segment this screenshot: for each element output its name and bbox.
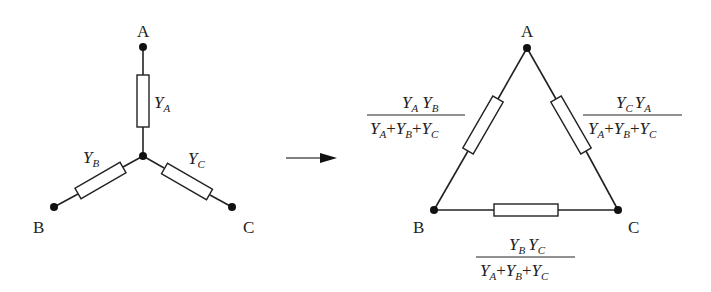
fraction-bc: YBYC YA+YB+YC bbox=[476, 235, 575, 282]
delta-wire-ca-top bbox=[527, 48, 556, 99]
fraction-ca-denominator: YA+YB+YC bbox=[588, 119, 657, 140]
resistor-ab bbox=[463, 96, 503, 154]
delta-node-b bbox=[430, 206, 438, 214]
delta-wire-ab-bottom bbox=[434, 151, 468, 210]
fraction-bc-numerator: YBYC bbox=[509, 235, 546, 256]
star-label-c: C bbox=[243, 218, 254, 237]
star-wire-b-outer bbox=[54, 194, 78, 207]
resistor-bc bbox=[494, 204, 558, 216]
star-label-a: A bbox=[137, 22, 150, 41]
fraction-ca: YCYA YA+YB+YC bbox=[583, 93, 682, 140]
delta-label-b: B bbox=[413, 218, 424, 237]
delta-wire-ab-top bbox=[498, 48, 527, 99]
star-node-c bbox=[228, 203, 236, 211]
label-yb: YB bbox=[83, 148, 99, 169]
resistor-ca bbox=[551, 96, 591, 154]
star-label-b: B bbox=[33, 218, 44, 237]
delta-network: A B C YAYB YA+YB+YC YCYA YA+YB+YC bbox=[367, 22, 682, 282]
star-node-b bbox=[50, 203, 58, 211]
star-network: A B C YA YB YC bbox=[33, 22, 254, 237]
fraction-ab-denominator: YA+YB+YC bbox=[370, 119, 439, 140]
delta-node-c bbox=[614, 206, 622, 214]
resistor-yc bbox=[161, 163, 212, 199]
delta-wire-ca-bottom bbox=[586, 151, 618, 210]
transform-arrow bbox=[286, 153, 337, 163]
resistor-ya bbox=[137, 75, 149, 127]
star-delta-diagram: A B C YA YB YC bbox=[0, 0, 711, 292]
delta-label-a: A bbox=[521, 22, 534, 41]
arrow-head-icon bbox=[320, 153, 337, 163]
fraction-ab: YAYB YA+YB+YC bbox=[367, 93, 465, 140]
delta-node-a bbox=[523, 44, 531, 52]
label-yc: YC bbox=[188, 149, 205, 170]
fraction-ca-numerator: YCYA bbox=[616, 93, 651, 114]
fraction-bc-denominator: YA+YB+YC bbox=[480, 261, 549, 282]
resistor-yb bbox=[75, 162, 126, 198]
label-ya: YA bbox=[154, 93, 170, 114]
delta-label-c: C bbox=[628, 218, 639, 237]
star-node-a bbox=[139, 43, 147, 51]
fraction-ab-numerator: YAYB bbox=[402, 93, 439, 114]
star-center-node bbox=[139, 152, 147, 160]
